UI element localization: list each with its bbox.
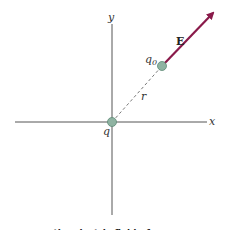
distance-line	[112, 66, 162, 122]
field-vector-label: E	[176, 35, 184, 48]
field-vector-arrow	[162, 13, 213, 66]
y-axis-label: y	[107, 11, 115, 24]
test-charge	[158, 62, 167, 71]
electric-field-diagram: x y r E q q0 ... the electric field of .…	[0, 0, 225, 230]
test-charge-label: q0	[145, 53, 157, 67]
distance-label: r	[141, 90, 147, 103]
x-axis-label: x	[209, 115, 216, 128]
source-charge-label: q	[103, 125, 110, 138]
caption-fragment: ... the electric field of ...	[40, 228, 163, 230]
